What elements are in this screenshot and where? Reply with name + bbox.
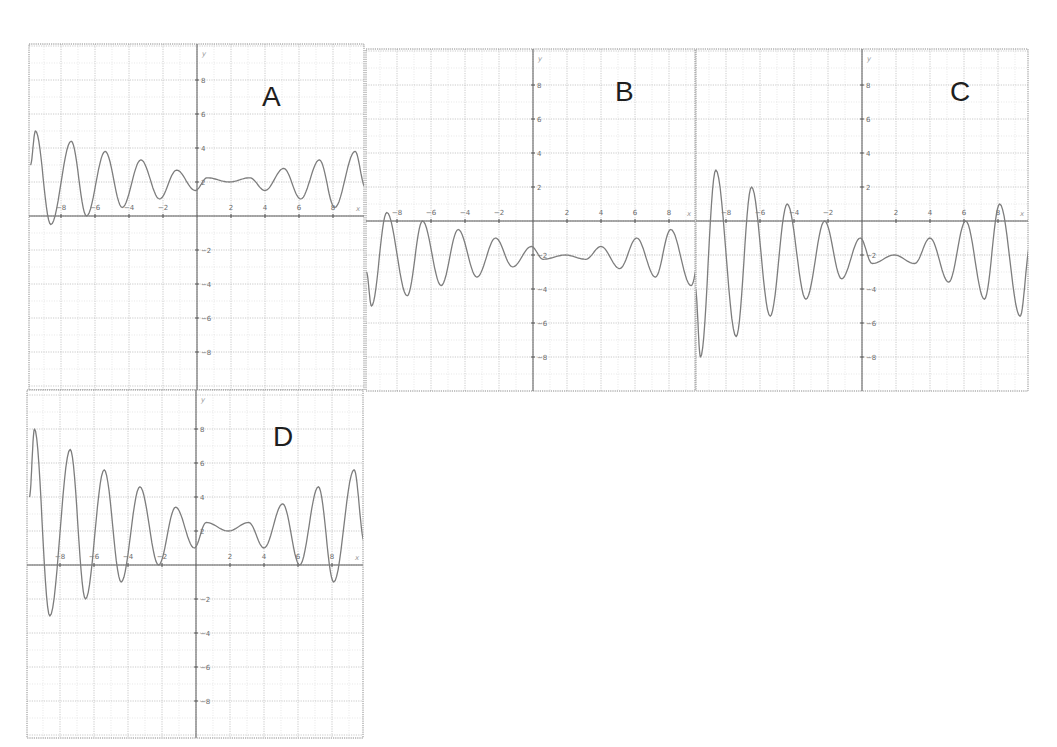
y-tick-label: −2 xyxy=(201,247,211,255)
x-tick-label: 4 xyxy=(262,553,267,561)
y-tick-label: −6 xyxy=(537,320,548,328)
graph-panel-d: −8−6−4−224688642−2−4−6−8xyD xyxy=(27,390,364,738)
x-tick-label: 6 xyxy=(297,204,302,212)
panel-letter: C xyxy=(950,76,970,107)
x-tick-label: −6 xyxy=(426,209,437,217)
x-tick-label: 8 xyxy=(667,209,671,217)
x-tick-label: −2 xyxy=(823,209,833,217)
x-tick-label: 4 xyxy=(599,209,604,217)
x-tick-label: −4 xyxy=(460,209,471,217)
y-axis-label: y xyxy=(537,55,543,63)
x-tick-label: −8 xyxy=(55,553,65,561)
y-tick-label: −6 xyxy=(866,320,877,328)
x-axis-label: x xyxy=(354,554,360,562)
y-tick-label: 4 xyxy=(537,150,542,158)
y-tick-label: −8 xyxy=(537,354,547,362)
y-tick-label: 2 xyxy=(537,184,541,192)
y-tick-label: 8 xyxy=(201,77,205,85)
x-tick-label: 4 xyxy=(263,204,268,212)
graph-sheet: −8−6−4−224688642−2−4−6−8xyA−8−6−4−224688… xyxy=(0,0,1057,747)
y-tick-label: −4 xyxy=(201,281,212,289)
x-axis-label: x xyxy=(355,205,361,213)
x-tick-label: 2 xyxy=(229,204,233,212)
panel-background xyxy=(366,49,695,391)
x-axis-label: x xyxy=(686,210,692,218)
x-tick-label: 4 xyxy=(928,209,933,217)
y-tick-label: −8 xyxy=(201,349,211,357)
y-tick-label: −6 xyxy=(200,664,211,672)
x-tick-label: 6 xyxy=(633,209,638,217)
x-tick-label: −8 xyxy=(392,209,402,217)
y-tick-label: −2 xyxy=(200,596,210,604)
y-tick-label: −8 xyxy=(866,354,876,362)
y-tick-label: 6 xyxy=(537,116,542,124)
y-tick-label: −8 xyxy=(200,698,210,706)
x-tick-label: 2 xyxy=(894,209,898,217)
graph-panel-b: −8−6−4−224688642−2−4−6−8xyB xyxy=(366,49,701,391)
x-axis-label: x xyxy=(1019,210,1025,218)
y-tick-label: 4 xyxy=(200,494,205,502)
graph-panel-c: −8−6−4−224688642−2−4−6−8xyC xyxy=(695,49,1030,391)
y-tick-label: 4 xyxy=(866,150,871,158)
x-tick-label: −2 xyxy=(494,209,504,217)
panel-letter: B xyxy=(615,76,634,107)
y-tick-label: 6 xyxy=(201,111,206,119)
y-tick-label: 8 xyxy=(537,82,541,90)
y-tick-label: 8 xyxy=(866,82,870,90)
x-tick-label: −6 xyxy=(89,553,100,561)
x-tick-label: 8 xyxy=(330,553,334,561)
x-tick-label: 2 xyxy=(565,209,569,217)
panel-letter: A xyxy=(262,81,281,112)
y-tick-label: −4 xyxy=(866,286,877,294)
x-tick-label: −2 xyxy=(158,204,168,212)
panel-letter: D xyxy=(273,421,293,452)
y-tick-label: −4 xyxy=(200,630,211,638)
y-tick-label: 6 xyxy=(866,116,871,124)
y-axis-label: y xyxy=(866,55,872,63)
graph-panel-a: −8−6−4−224688642−2−4−6−8xyA xyxy=(29,44,365,390)
y-tick-label: 8 xyxy=(200,426,204,434)
x-tick-label: 6 xyxy=(962,209,967,217)
y-axis-label: y xyxy=(201,50,207,58)
panel-background xyxy=(27,390,363,738)
y-tick-label: 2 xyxy=(866,184,870,192)
y-tick-label: 6 xyxy=(200,460,205,468)
y-tick-label: −6 xyxy=(201,315,212,323)
y-tick-label: 4 xyxy=(201,145,206,153)
y-axis-label: y xyxy=(200,396,206,404)
y-tick-label: −4 xyxy=(537,286,548,294)
x-tick-label: 2 xyxy=(228,553,232,561)
